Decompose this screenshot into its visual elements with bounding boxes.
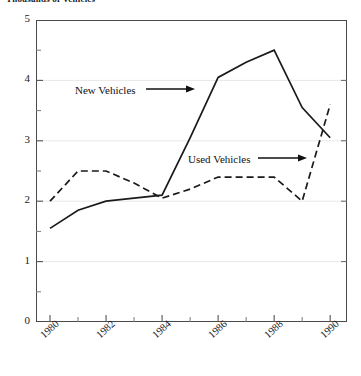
x-axis-tick-label: 1982 (94, 318, 117, 340)
annotation-new-vehicles: New Vehicles (75, 84, 136, 96)
x-axis-tick-label: 1980 (38, 318, 61, 340)
x-axis-labels: 198019821984198619881990 (0, 0, 361, 376)
chart-figure: Thousands of Vehicles 543210 19801982198… (0, 0, 361, 376)
annotation-used-vehicles: Used Vehicles (188, 153, 250, 165)
x-axis-tick-label: 1988 (262, 318, 285, 340)
x-axis-tick-label: 1984 (150, 318, 173, 340)
x-axis-tick-label: 1986 (206, 318, 229, 340)
x-axis-tick-label: 1990 (318, 318, 341, 340)
